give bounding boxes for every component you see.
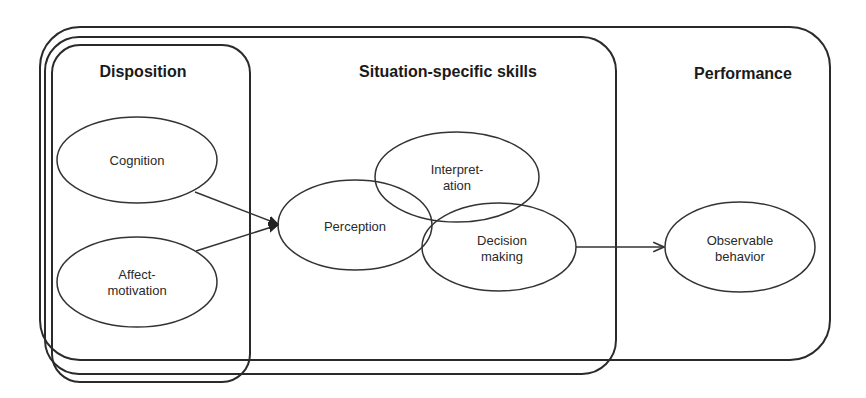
affect-motivation-label: Affect- motivation <box>107 267 166 300</box>
observable-text-line2: behavior <box>707 249 773 265</box>
affect-text-line2: motivation <box>107 283 166 299</box>
decision-text-line2: making <box>477 249 527 265</box>
perception-text: Perception <box>324 219 386 235</box>
cognition-label: Cognition <box>110 153 165 169</box>
situation-skills-frame <box>45 37 616 374</box>
edge-cognition-perception <box>195 192 278 224</box>
affect-text-line1: Affect- <box>107 267 166 283</box>
interpretation-text-line2: ation <box>431 178 484 194</box>
competence-model-diagram <box>0 0 866 398</box>
observable-text-line1: Observable <box>707 233 773 249</box>
interpretation-text-line1: Interpret- <box>431 162 484 178</box>
performance-title: Performance <box>694 64 792 84</box>
interpretation-label: Interpret- ation <box>431 162 484 195</box>
edge-affect-perception <box>196 225 278 251</box>
cognition-text: Cognition <box>110 153 165 169</box>
decision-making-label: Decision making <box>477 233 527 266</box>
observable-behavior-label: Observable behavior <box>707 233 773 266</box>
perception-label: Perception <box>324 219 386 235</box>
disposition-frame <box>52 45 250 382</box>
decision-text-line1: Decision <box>477 233 527 249</box>
situation-skills-title: Situation-specific skills <box>359 62 537 82</box>
disposition-title: Disposition <box>99 62 186 82</box>
